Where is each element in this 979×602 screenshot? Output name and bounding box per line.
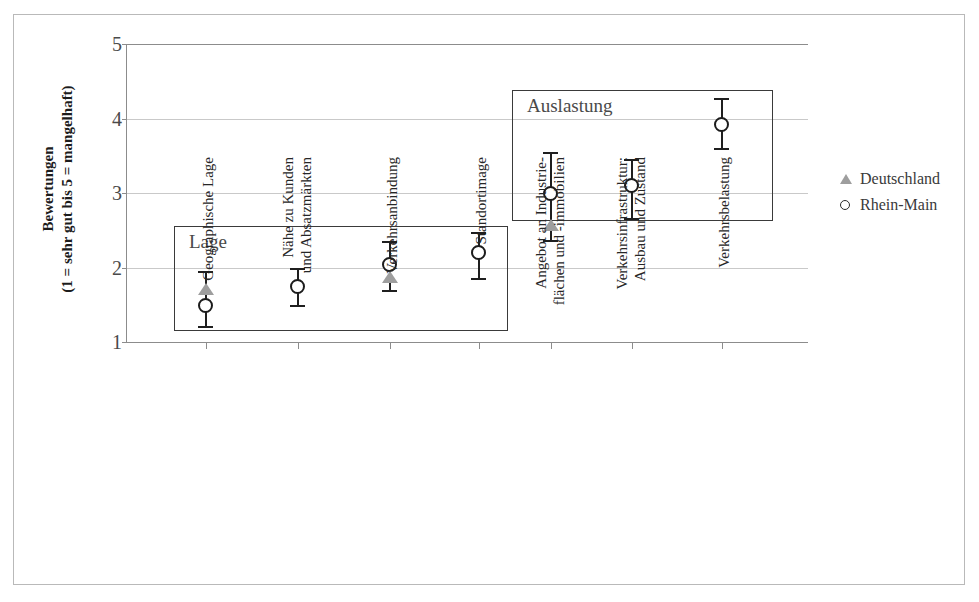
x-category-label-1: Geographische Lage — [199, 157, 217, 352]
circle-icon — [840, 200, 850, 210]
x-category-label-6: Verkehrsinfrastruktur: Ausbau und Zustan… — [613, 157, 649, 352]
y-tick-label-5: 5 — [82, 34, 122, 54]
x-category-label-7: Verkehrsbelastung — [715, 157, 733, 352]
x-category-label-5-line2: flächen und -immobilien — [550, 157, 568, 352]
y-axis-title: Bewertungen (1 = sehr gut bis 5 = mangel… — [39, 39, 77, 339]
y-axis-title-line1: Bewertungen — [39, 39, 58, 339]
gridline-5 — [126, 44, 808, 45]
x-category-label-6-line1: Verkehrsinfrastruktur: — [613, 157, 631, 352]
chart-figure: Bewertungen (1 = sehr gut bis 5 = mangel… — [0, 0, 979, 602]
x-category-label-6-line2: Ausbau und Zustand — [631, 157, 649, 352]
x-category-label-4: Standortimage — [472, 157, 490, 352]
y-tick-label-4: 4 — [82, 109, 122, 129]
x-category-label-4-line1: Standortimage — [472, 157, 490, 352]
y-tick-label-1: 1 — [82, 332, 122, 352]
y-axis-title-line2: (1 = sehr gut bis 5 = mangelhaft) — [58, 39, 77, 339]
triangle-icon — [840, 174, 852, 184]
group-box-lage: Lage — [174, 226, 508, 331]
legend-item-deutschland-label: Deutschland — [860, 170, 940, 187]
errorbar-cap-low-7 — [714, 148, 729, 150]
x-category-label-2-line2: und Absatzmärkten — [297, 157, 315, 352]
x-category-label-5: Angebot an Industrie- flächen und -immob… — [532, 157, 568, 352]
x-category-label-1-line1: Geographische Lage — [199, 157, 217, 352]
group-box-auslastung-label: Auslastung — [527, 95, 613, 117]
x-category-label-2-line1: Nähe zu Kunden — [279, 157, 297, 352]
x-category-label-3: Verkehrsanbindung — [383, 157, 401, 352]
marker-rhein-main-7 — [714, 117, 729, 132]
legend-item-rhein-main[interactable]: Rhein-Main — [838, 192, 940, 218]
y-axis-line — [126, 44, 127, 343]
errorbar-cap-high-5 — [543, 152, 558, 154]
x-category-label-3-line1: Verkehrsanbindung — [383, 157, 401, 352]
legend-item-deutschland[interactable]: Deutschland — [838, 166, 940, 192]
x-category-label-2: Nähe zu Kunden und Absatzmärkten — [279, 157, 315, 352]
errorbar-cap-high-7 — [714, 98, 729, 100]
y-tick-label-2: 2 — [82, 258, 122, 278]
x-category-label-5-line1: Angebot an Industrie- — [532, 157, 550, 352]
x-axis-line — [126, 342, 808, 343]
legend-item-rhein-main-label: Rhein-Main — [860, 196, 937, 213]
y-tick-label-3: 3 — [82, 183, 122, 203]
chart-legend: Deutschland Rhein-Main — [838, 166, 940, 218]
x-category-label-7-line1: Verkehrsbelastung — [715, 157, 733, 352]
